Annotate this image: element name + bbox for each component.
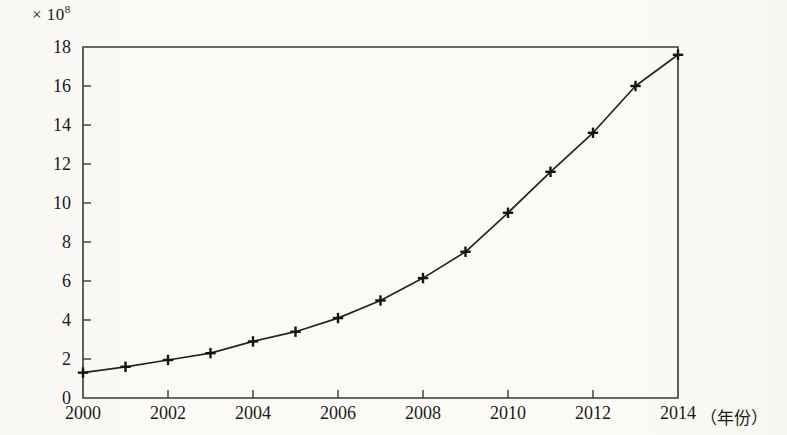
x-axis-tick-label: 2000 [43,404,123,422]
x-axis-tick-label: 2006 [298,404,378,422]
x-axis-tick-label: 2002 [128,404,208,422]
data-line [83,55,678,373]
data-point-marker [78,367,88,377]
y-axis-tick-label: 18 [31,38,71,56]
x-axis-tick-label: 2008 [383,404,463,422]
data-point-marker [120,362,130,372]
x-axis-title: （年份） [700,404,768,429]
y-axis-tick-marks [83,86,91,359]
y-axis-tick-label: 12 [31,155,71,173]
x-axis-tick-label: 2012 [553,404,633,422]
chart-page: × 108 024681012141618 200020022004200620… [0,0,787,435]
data-point-marker [205,348,215,358]
y-axis-tick-label: 6 [31,272,71,290]
data-point-marker [163,355,173,365]
axes-group [83,47,678,398]
x-axis-tick-label: 2004 [213,404,293,422]
y-axis-tick-label: 2 [31,350,71,368]
data-point-marker [290,327,300,337]
data-point-marker [418,273,428,283]
data-point-markers [78,50,683,378]
y-axis-tick-label: 4 [31,311,71,329]
data-point-marker [248,336,258,346]
y-axis-tick-label: 16 [31,77,71,95]
x-axis-tick-label: 2010 [468,404,548,422]
y-axis-tick-label: 14 [31,116,71,134]
data-point-marker [333,313,343,323]
y-axis-tick-label: 8 [31,233,71,251]
x-axis-tick-marks [168,390,593,398]
line-chart-plot [0,0,787,435]
data-point-marker [375,295,385,305]
y-axis-tick-label: 10 [31,194,71,212]
